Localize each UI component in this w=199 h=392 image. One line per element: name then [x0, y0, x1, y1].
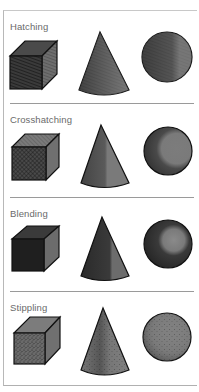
cube-blending — [12, 226, 59, 271]
cone-hatching — [79, 32, 129, 95]
cone-crosshatching — [81, 125, 129, 188]
cone-blending — [81, 217, 129, 281]
section-divider — [10, 103, 194, 104]
section-blending: Blending — [3, 199, 197, 293]
sphere-blending — [144, 220, 192, 268]
cone-stippling — [81, 308, 129, 375]
cube-hatching — [10, 41, 57, 89]
cube-crosshatching — [12, 134, 59, 180]
sphere-hatching — [142, 32, 192, 82]
section-divider — [10, 197, 194, 198]
sphere-stippling — [143, 313, 191, 361]
section-divider — [10, 291, 194, 292]
sphere-crosshatching — [144, 127, 192, 175]
cube-stippling — [14, 317, 60, 364]
section-crosshatching: Crosshatching — [3, 105, 197, 199]
section-stippling: Stippling — [3, 293, 197, 387]
section-hatching: Hatching — [3, 12, 197, 106]
